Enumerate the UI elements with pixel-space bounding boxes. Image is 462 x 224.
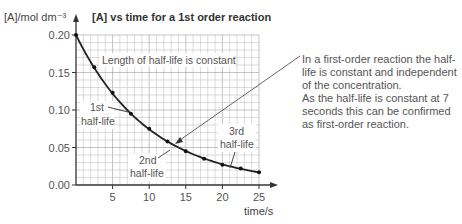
data-point [166,140,170,144]
data-point [129,112,133,116]
annotation-3rd-line1: 3rd [229,125,244,137]
data-point [111,91,115,95]
y-tick-label: 0.10 [49,104,70,116]
leader-arrow-icon [175,137,183,144]
data-point [220,163,224,167]
y-tick-label: 0.20 [49,29,70,41]
annotation-1st-line2: half-life [81,115,115,127]
annotation-2nd-line1: 2nd [139,154,157,166]
data-point [147,127,151,131]
data-point [92,65,96,69]
y-axis-label: [A]/mol dm⁻³ [4,11,67,23]
x-tick-label: 15 [180,191,192,203]
annotation-3rd-line2: half-life [220,138,254,150]
x-tick-label: 5 [110,191,116,203]
data-point [184,149,188,153]
side-note-paragraph-2: As the half-life is constant at 7 second… [302,92,462,131]
side-note-paragraph-1: In a first-order reaction the half-life … [302,53,462,92]
x-axis-label: time/s [244,205,274,217]
x-tick-label: 25 [253,191,265,203]
x-axis-arrow-icon [270,182,278,188]
chart-title: [A] vs time for a 1st order reaction [92,11,271,23]
annotation-half-life-constant: Length of half-life is constant [102,54,236,66]
x-tick-label: 20 [216,191,228,203]
annotation-1st-line1: 1st [90,101,104,113]
annotation-2nd-line2: half-life [130,167,164,179]
y-axis-arrow-icon [73,14,79,22]
side-note: In a first-order reaction the half-life … [302,53,462,131]
y-tick-label: 0.05 [49,142,70,154]
data-point [74,33,78,37]
y-tick-label: 0.15 [49,67,70,79]
x-tick-label: 10 [143,191,155,203]
y-tick-label: 0.00 [49,179,70,191]
data-point [239,167,243,171]
data-point [202,157,206,161]
data-point [257,170,261,174]
